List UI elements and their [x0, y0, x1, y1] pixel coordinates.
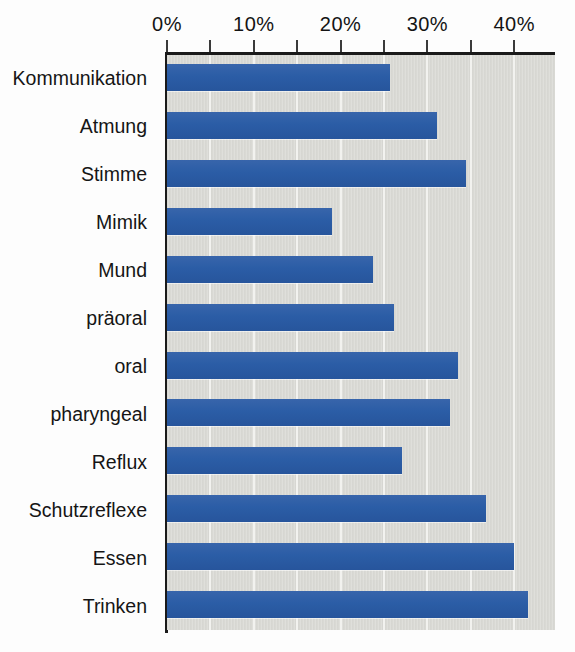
- x-axis-tick-label: 40%: [493, 13, 535, 36]
- bar-row: [167, 534, 555, 582]
- bar: [167, 399, 450, 426]
- category-label: oral: [0, 343, 157, 391]
- x-axis-tick-label: 10%: [233, 13, 275, 36]
- bar-row: [167, 55, 555, 103]
- bar: [167, 591, 528, 618]
- category-label: Mund: [0, 247, 157, 295]
- bar: [167, 112, 437, 139]
- bar-row: [167, 582, 555, 630]
- x-axis-tick-label: 20%: [320, 13, 362, 36]
- category-label: Stimme: [0, 151, 157, 199]
- bar-row: [167, 103, 555, 151]
- x-axis-tick: [209, 40, 211, 52]
- x-axis-tick: [383, 40, 385, 52]
- x-axis-tick: [340, 40, 342, 52]
- x-axis-tick: [426, 40, 428, 52]
- bar: [167, 256, 373, 283]
- x-axis-tick: [296, 40, 298, 52]
- bar: [167, 447, 402, 474]
- bar-row: [167, 247, 555, 295]
- bar: [167, 160, 466, 187]
- bar-row: [167, 486, 555, 534]
- plot-area: [167, 55, 555, 630]
- bar: [167, 64, 390, 91]
- bar-row: [167, 151, 555, 199]
- category-label: Kommunikation: [0, 55, 157, 103]
- bar-row: [167, 438, 555, 486]
- category-label: Atmung: [0, 103, 157, 151]
- category-label: pharyngeal: [0, 390, 157, 438]
- bar: [167, 352, 458, 379]
- x-axis-tick-label: 0%: [152, 13, 182, 36]
- bar: [167, 208, 332, 235]
- category-labels: KommunikationAtmungStimmeMimikMundpräora…: [0, 55, 167, 630]
- bar-chart: 0%10%20%30%40% KommunikationAtmungStimme…: [0, 0, 575, 652]
- bar-row: [167, 199, 555, 247]
- category-label: Mimik: [0, 199, 157, 247]
- category-label: Trinken: [0, 582, 157, 630]
- x-axis-tick: [253, 40, 255, 52]
- x-axis-tick: [166, 40, 168, 52]
- bar: [167, 304, 394, 331]
- bar-row: [167, 343, 555, 391]
- category-label: Essen: [0, 534, 157, 582]
- plot-inner: [167, 55, 555, 630]
- category-label: Schutzreflexe: [0, 486, 157, 534]
- x-axis-tick-label: 30%: [407, 13, 449, 36]
- x-axis-tick: [513, 40, 515, 52]
- x-axis-tick: [470, 40, 472, 52]
- bar: [167, 543, 514, 570]
- category-label: Reflux: [0, 438, 157, 486]
- category-label: präoral: [0, 295, 157, 343]
- bar-row: [167, 390, 555, 438]
- bar: [167, 495, 486, 522]
- bar-row: [167, 295, 555, 343]
